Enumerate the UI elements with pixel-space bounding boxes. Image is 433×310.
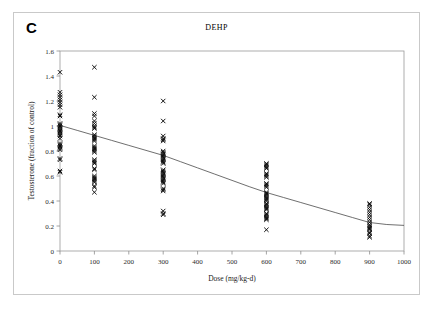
x-tick-label: 800 (330, 258, 341, 266)
plot-border (60, 51, 404, 251)
figure-panel: DEHP C DEHP 0100200300400500600700800900… (13, 12, 420, 295)
x-tick-label: 400 (192, 258, 203, 266)
data-point (92, 95, 96, 99)
x-tick-label: 300 (158, 258, 169, 266)
data-point-group (58, 65, 372, 239)
data-point (92, 65, 96, 69)
x-tick-label: 600 (261, 258, 272, 266)
data-point (92, 190, 96, 194)
scatter-plot-svg: 01002003004005006007008009001000 00.20.4… (14, 13, 421, 296)
x-axis-ticks: 01002003004005006007008009001000 (58, 251, 411, 266)
plot-area: 01002003004005006007008009001000 00.20.4… (14, 13, 421, 296)
y-tick-label: 1.4 (45, 73, 54, 81)
y-tick-label: 0.4 (45, 198, 54, 206)
y-axis-title: Testosterone (fraction of control) (27, 101, 36, 201)
y-tick-label: 1.2 (45, 98, 54, 106)
data-point (92, 114, 96, 118)
data-point (161, 119, 165, 123)
fitted-curve (60, 125, 404, 225)
x-tick-label: 200 (124, 258, 135, 266)
y-tick-label: 0 (51, 248, 55, 256)
x-tick-label: 1000 (397, 258, 412, 266)
x-tick-label: 500 (227, 258, 238, 266)
x-tick-label: 100 (89, 258, 100, 266)
x-axis-title: Dose (mg/kg-d) (208, 274, 256, 283)
plot-frame (60, 51, 404, 251)
data-point (161, 99, 165, 103)
y-tick-label: 0.2 (45, 223, 54, 231)
x-tick-label: 0 (58, 258, 62, 266)
y-tick-label: 0.6 (45, 173, 54, 181)
y-tick-label: 1.6 (45, 48, 54, 56)
y-tick-label: 0.8 (45, 148, 54, 156)
x-tick-label: 700 (296, 258, 307, 266)
x-tick-label: 900 (364, 258, 375, 266)
fitted-curve-path (60, 125, 404, 225)
data-point (264, 228, 268, 232)
y-tick-label: 1 (51, 123, 55, 131)
